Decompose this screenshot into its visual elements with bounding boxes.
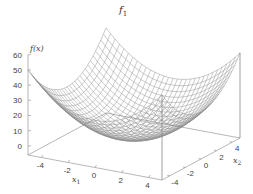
svg-text:-4: -4 xyxy=(171,178,179,187)
svg-text:4: 4 xyxy=(145,181,150,190)
svg-text:40: 40 xyxy=(13,81,22,90)
svg-text:0: 0 xyxy=(204,161,209,170)
svg-text:50: 50 xyxy=(13,66,22,75)
surface-plot: 0102030405060-4-2024-4-2024 f(x) x1 x2 xyxy=(0,0,253,194)
svg-text:-2: -2 xyxy=(187,169,195,178)
svg-text:4: 4 xyxy=(235,144,240,153)
z-axis-label: f(x) xyxy=(29,44,44,53)
x1-axis-label: x1 xyxy=(72,175,80,185)
surface-mesh xyxy=(28,28,240,141)
svg-text:10: 10 xyxy=(13,127,22,136)
svg-text:-4: -4 xyxy=(37,161,45,170)
svg-text:2: 2 xyxy=(219,153,224,162)
x2-axis-label: x2 xyxy=(233,156,242,166)
svg-text:0: 0 xyxy=(92,171,97,180)
svg-text:-2: -2 xyxy=(64,166,72,175)
axes-front xyxy=(162,53,240,180)
svg-text:20: 20 xyxy=(13,111,22,120)
svg-text:2: 2 xyxy=(119,176,124,185)
svg-text:0: 0 xyxy=(18,142,23,151)
svg-text:30: 30 xyxy=(13,96,22,105)
svg-text:60: 60 xyxy=(13,51,22,60)
